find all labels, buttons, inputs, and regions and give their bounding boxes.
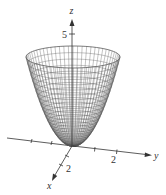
x-axis-arrowhead xyxy=(52,174,57,182)
y-axis-tick xyxy=(117,150,118,155)
y-axis-tick xyxy=(51,141,52,145)
mesh-meridian xyxy=(47,48,73,146)
y-tick-label: 2 xyxy=(111,154,116,165)
y-axis-front xyxy=(73,146,146,155)
mesh-meridian xyxy=(73,61,116,146)
y-axis-label: y xyxy=(153,150,159,161)
mesh-meridian xyxy=(73,48,99,146)
mesh-meridian xyxy=(30,61,73,146)
x-tick-label: 2 xyxy=(66,163,71,174)
paraboloid-figure: 5 z 2 y 2 x xyxy=(0,0,166,195)
z-axis-label: z xyxy=(69,5,74,16)
y-axis-arrowhead xyxy=(145,153,152,158)
paraboloid-mesh xyxy=(26,46,120,146)
z-tick-label: 5 xyxy=(62,29,67,40)
y-axis-tick xyxy=(31,139,32,143)
z-axis-arrowhead xyxy=(70,19,75,26)
x-axis-label: x xyxy=(46,180,52,191)
y-axis-tick xyxy=(95,147,96,152)
